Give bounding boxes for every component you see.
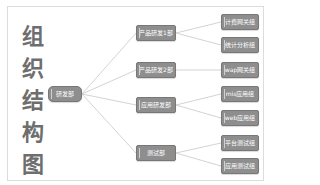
department-label: 产品研发2部 [137, 63, 175, 77]
team-label: 平台测试组 [222, 136, 258, 150]
department-label: 测试部 [137, 146, 175, 160]
team-node[interactable]: 统计分析组 [221, 37, 259, 53]
department-node[interactable]: 应用研发部 [136, 97, 176, 113]
root-node-label: 研发部 [49, 87, 81, 101]
department-label: 产品研发1部 [137, 26, 175, 40]
team-node[interactable]: mis应用组 [221, 86, 259, 102]
department-label: 应用研发部 [137, 98, 175, 112]
team-label: mis应用组 [222, 87, 258, 101]
team-label: 计费网关组 [222, 15, 258, 29]
team-label: wap网关组 [222, 63, 258, 77]
team-label: 应用测试组 [222, 159, 258, 173]
team-label: web应用组 [222, 111, 258, 125]
department-node[interactable]: 产品研发2部 [136, 62, 176, 78]
team-label: 统计分析组 [222, 38, 258, 52]
team-node[interactable]: 平台测试组 [221, 135, 259, 151]
team-node[interactable]: 应用测试组 [221, 158, 259, 174]
team-node[interactable]: 计费网关组 [221, 14, 259, 30]
department-node[interactable]: 测试部 [136, 145, 176, 161]
team-node[interactable]: web应用组 [221, 110, 259, 126]
root-node[interactable]: 研发部 [48, 86, 82, 102]
team-node[interactable]: wap网关组 [221, 62, 259, 78]
department-node[interactable]: 产品研发1部 [136, 25, 176, 41]
